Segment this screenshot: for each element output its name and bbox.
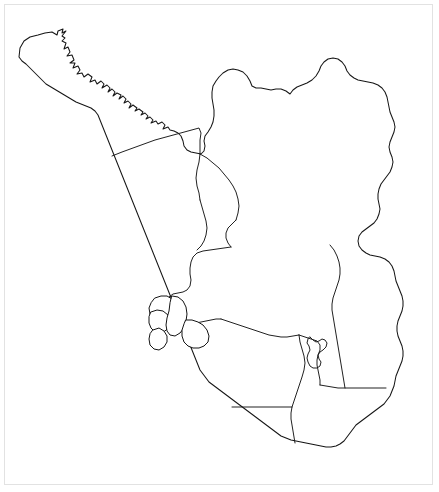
island-south xyxy=(149,328,167,350)
state-boundary xyxy=(19,29,403,447)
state-outline-group xyxy=(19,29,403,447)
map-figure xyxy=(0,0,439,492)
map-canvas xyxy=(0,0,439,492)
